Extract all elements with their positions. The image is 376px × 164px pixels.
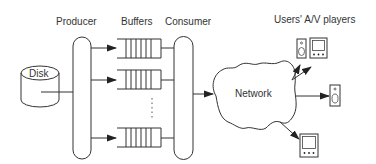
- network-node: Network: [213, 61, 296, 129]
- consumer-node: [174, 37, 193, 160]
- network-label: Network: [235, 88, 273, 99]
- buffer-queue-1: [91, 39, 174, 58]
- buffers-label: Buffers: [121, 16, 153, 27]
- streaming-architecture-diagram: Producer Buffers Consumer Users' A/V pla…: [0, 0, 376, 164]
- producer-label: Producer: [56, 16, 97, 27]
- disk-node: Disk: [21, 66, 59, 107]
- users-players-label: Users' A/V players: [274, 14, 355, 25]
- disk-label: Disk: [29, 68, 49, 79]
- monitor-top: [310, 38, 327, 58]
- producer-node: [73, 37, 91, 159]
- buffer-queue-n: [91, 128, 174, 147]
- network-to-monitor-bottom-edge: [280, 122, 299, 139]
- buffer-queue-2: [91, 70, 174, 89]
- monitor-bottom: [300, 134, 318, 157]
- consumer-label: Consumer: [165, 16, 212, 27]
- speaker-top: [297, 39, 306, 58]
- speaker-right: [330, 85, 340, 106]
